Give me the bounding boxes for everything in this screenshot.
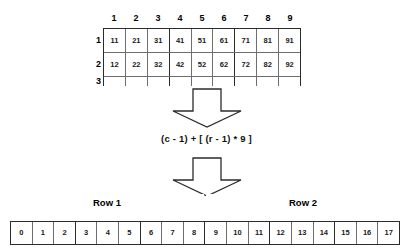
array-cell: 11 — [249, 222, 271, 244]
grid-cell: 12 — [104, 53, 126, 76]
grid-cell — [279, 77, 300, 86]
grid-row-header: 3 — [85, 76, 101, 86]
grid-cell: 72 — [235, 53, 257, 76]
row-1-span-label: Row 1 — [10, 194, 204, 212]
row-2-span: Row 2 — [206, 194, 400, 212]
grid-cell: 61 — [213, 29, 235, 52]
table-row-partial — [104, 77, 300, 86]
grid-cell: 41 — [170, 29, 192, 52]
grid-cell: 51 — [192, 29, 214, 52]
array-cell: 12 — [270, 222, 292, 244]
array-cell: 8 — [184, 222, 206, 244]
array-cell: 14 — [314, 222, 336, 244]
array-cell: 2 — [54, 222, 76, 244]
grid-cell: 92 — [279, 53, 300, 76]
row-2-span-label: Row 2 — [206, 194, 400, 212]
grid-cell — [257, 77, 279, 86]
grid-cell: 62 — [213, 53, 235, 76]
one-dimensional-array: 0 1 2 3 4 5 6 7 8 9 10 11 12 13 14 15 16… — [10, 221, 400, 245]
grid-cell — [235, 77, 257, 86]
index-formula: (c - 1) + [ (r - 1) * 9 ] — [0, 133, 413, 144]
grid-cell: 91 — [279, 29, 300, 52]
grid-cell: 42 — [170, 53, 192, 76]
grid-cell: 32 — [148, 53, 170, 76]
table-row: 11 21 31 41 51 61 71 81 91 — [104, 29, 300, 53]
grid-cell: 52 — [192, 53, 214, 76]
array-cell: 3 — [76, 222, 98, 244]
array-cell: 1 — [33, 222, 55, 244]
grid-cell: 71 — [235, 29, 257, 52]
grid-column-header: 7 — [235, 11, 257, 26]
grid-column-header: 2 — [125, 11, 147, 26]
grid-column-header: 5 — [191, 11, 213, 26]
grid-table: 11 21 31 41 51 61 71 81 91 12 22 32 42 5… — [103, 28, 301, 86]
grid-cell: 31 — [148, 29, 170, 52]
table-row: 12 22 32 42 52 62 72 82 92 — [104, 53, 300, 77]
grid-row-header: 1 — [85, 28, 101, 52]
grid-column-header: 3 — [147, 11, 169, 26]
grid-cell — [126, 77, 148, 86]
grid-column-headers: 1 2 3 4 5 6 7 8 9 — [103, 11, 301, 26]
row-1-span: Row 1 — [10, 194, 204, 212]
row-span-indicators: Row 1 Row 2 — [0, 194, 413, 212]
grid-column-header: 1 — [103, 11, 125, 26]
grid-cell: 82 — [257, 53, 279, 76]
array-cell: 17 — [378, 222, 399, 244]
grid-column-header: 9 — [279, 11, 301, 26]
grid-cell — [170, 77, 192, 86]
array-cell: 7 — [162, 222, 184, 244]
array-cell: 6 — [141, 222, 163, 244]
grid-column-header: 8 — [257, 11, 279, 26]
grid-row-header: 2 — [85, 52, 101, 76]
array-cell: 10 — [227, 222, 249, 244]
array-cell: 0 — [11, 222, 33, 244]
grid-cell — [148, 77, 170, 86]
array-cell: 15 — [335, 222, 357, 244]
grid-cell: 11 — [104, 29, 126, 52]
grid-cell: 81 — [257, 29, 279, 52]
grid-row-headers: 1 2 3 — [85, 28, 101, 86]
grid-cell — [104, 77, 126, 86]
array-cell: 5 — [119, 222, 141, 244]
array-cell: 4 — [97, 222, 119, 244]
grid-cell — [213, 77, 235, 86]
array-cell: 9 — [205, 222, 227, 244]
two-dimensional-grid-section: 1 2 3 4 5 6 7 8 9 1 2 3 11 21 31 41 51 6… — [0, 0, 413, 90]
array-cell: 13 — [292, 222, 314, 244]
grid-cell: 21 — [126, 29, 148, 52]
down-block-arrow-icon — [171, 88, 243, 128]
grid-cell — [192, 77, 214, 86]
array-cell: 16 — [357, 222, 379, 244]
down-block-arrow-icon — [171, 157, 243, 197]
grid-column-header: 4 — [169, 11, 191, 26]
grid-column-header: 6 — [213, 11, 235, 26]
grid-cell: 22 — [126, 53, 148, 76]
